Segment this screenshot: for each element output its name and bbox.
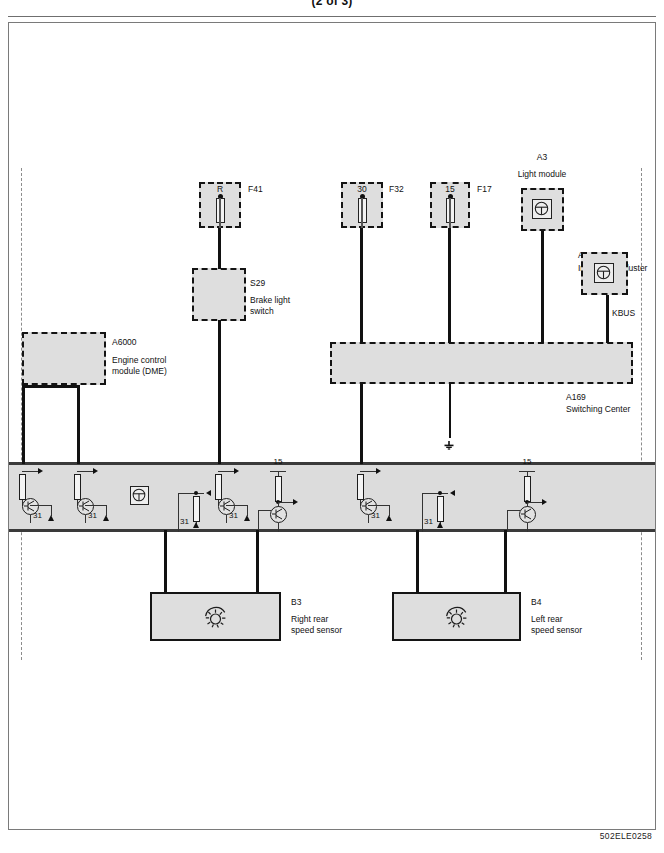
- transistor-in-8: [507, 510, 520, 511]
- junction-dot-3: [194, 491, 198, 495]
- resistor-4: [215, 474, 222, 500]
- ground-icon-1: [48, 515, 54, 521]
- transistor-out-5: [278, 523, 279, 532]
- component-label-b4-id: B4: [531, 597, 541, 608]
- band-arrow-1: [38, 468, 43, 474]
- ground-label-2: 31: [88, 511, 97, 520]
- document-code: 502ELE0258: [600, 831, 652, 841]
- fuse-label-f32: F32: [389, 184, 404, 195]
- component-label-a3-name: Light module: [492, 169, 592, 180]
- sensor-tap-lead-7: [422, 493, 423, 532]
- component-label-a169-id: A169: [566, 392, 586, 403]
- band-arrow-8: [542, 499, 547, 505]
- ground-label-4: 31: [229, 511, 238, 520]
- wire-a6000-bottom-link: [22, 385, 80, 388]
- ground-icon-4b: [386, 515, 392, 521]
- transistor-gnd-lead-6: [368, 515, 369, 523]
- band-tap-line-5: [278, 502, 294, 503]
- sensor-tap-top-3: [178, 493, 204, 494]
- sensor-tap-lead-3: [178, 493, 179, 532]
- ground-icon-3: [193, 522, 199, 528]
- transistor-in-drop-8: [507, 510, 508, 532]
- fuse-lead-f32: [361, 198, 362, 229]
- diagram-frame: [8, 22, 656, 830]
- transistor-out-1: [30, 505, 52, 506]
- resistor-1: [19, 474, 26, 500]
- wire-f41-to-s29: [218, 228, 221, 269]
- wire-a3-to-a169: [541, 231, 544, 343]
- band-arrow-7: [450, 490, 455, 496]
- ground-icon-4: [244, 515, 250, 521]
- band-arrow-3: [206, 490, 211, 496]
- title-divider: [8, 16, 656, 17]
- module-chip-icon-a2: [594, 263, 614, 283]
- transistor-in-5: [258, 510, 271, 511]
- resistor-3: [193, 496, 200, 522]
- fuse-label-f41: F41: [248, 184, 263, 195]
- terminal-label-15-right: 15: [515, 457, 539, 466]
- gear-icon-b4: [440, 601, 473, 638]
- wire-a6000-left-to-band: [22, 385, 25, 464]
- fuse-lead-f41: [219, 198, 220, 229]
- wire-a169-ground-stub: [449, 384, 451, 438]
- band-tap-line-1: [22, 471, 39, 472]
- transistor-gnd-lead-4: [226, 515, 227, 523]
- module-chip-icon-band: [130, 486, 149, 505]
- transistor-gnd-lead-2: [85, 515, 86, 523]
- component-a169[interactable]: [330, 342, 633, 384]
- wire-s29-to-band: [218, 320, 221, 464]
- band-arrow-6: [376, 468, 381, 474]
- harness-band-top-rule: [9, 462, 655, 465]
- resistor-6: [357, 474, 364, 500]
- wire-band-to-b3-right: [256, 530, 259, 593]
- ground-label-5: 31: [371, 511, 380, 520]
- component-label-s29-id: S29: [250, 278, 265, 289]
- wire-a169-to-band: [360, 384, 363, 464]
- harness-band-bottom-rule: [9, 529, 655, 532]
- ground-label-6: 31: [424, 517, 433, 526]
- component-label-a169-name: Switching Center: [566, 404, 630, 415]
- gear-icon-b3: [199, 601, 232, 638]
- fuse-terminal-f32: 30: [341, 184, 383, 194]
- transistor-gnd-lead-1: [30, 515, 31, 523]
- wire-band-to-b4-left: [416, 530, 419, 593]
- wire-a2-to-a169-kbus: [606, 295, 609, 343]
- ground-icon-7: [437, 522, 443, 528]
- transistor-out-6: [368, 505, 390, 506]
- component-a6000[interactable]: [22, 332, 106, 385]
- junction-dot-7: [438, 491, 442, 495]
- component-label-b4-name: Left rear speed sensor: [531, 614, 582, 636]
- band-tap-line-6: [360, 471, 377, 472]
- component-label-b3-name: Right rear speed sensor: [291, 614, 342, 636]
- band-arrow-2: [93, 468, 98, 474]
- ground-label-1: 31: [33, 511, 42, 520]
- wire-f32-to-a169: [360, 228, 363, 343]
- zone-boundary-right: [641, 168, 642, 660]
- terminal-label-15-left: 15: [266, 457, 290, 466]
- wire-a6000-right-to-band: [77, 385, 80, 464]
- resistor-7: [437, 496, 444, 522]
- band-arrow-4: [234, 468, 239, 474]
- fuse-label-f17: F17: [477, 184, 492, 195]
- transistor-8: [519, 506, 536, 523]
- sensor-tap-top-7: [422, 493, 448, 494]
- bus-label-kbus: KBUS: [612, 308, 635, 319]
- fuse-lead-f17: [449, 198, 450, 229]
- component-label-a3-id: A3: [502, 152, 582, 163]
- resistor-2: [74, 474, 81, 500]
- transistor-5: [270, 506, 287, 523]
- component-s29[interactable]: [192, 268, 246, 321]
- component-label-b3-id: B3: [291, 597, 301, 608]
- band-tap-line-4: [218, 471, 235, 472]
- ground-label-3: 31: [180, 517, 189, 526]
- component-label-s29-name: Brake light switch: [250, 295, 290, 317]
- band-tap-line-2: [77, 471, 94, 472]
- band-arrow-5: [293, 499, 298, 505]
- wire-f17-to-a169: [448, 228, 451, 343]
- component-label-a6000-name: Engine control module (DME): [112, 355, 167, 377]
- wire-band-to-b3-left: [164, 530, 167, 593]
- ground-icon-2: [103, 515, 109, 521]
- resistor-5: [275, 476, 282, 502]
- component-label-a6000-id: A6000: [112, 337, 137, 348]
- transistor-out-4: [226, 505, 248, 506]
